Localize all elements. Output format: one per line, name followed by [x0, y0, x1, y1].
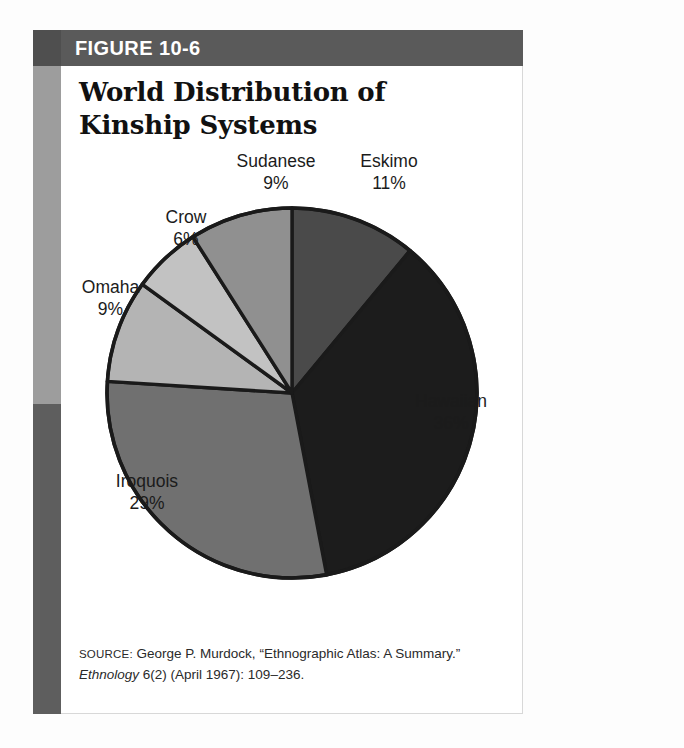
source-journal: Ethnology — [79, 667, 139, 682]
side-accent-bar-middle — [33, 66, 61, 404]
pie-chart: Sudanese 9% Eskimo 11% Crow 6% Omaha 9% … — [61, 158, 523, 628]
side-accent-bar-top — [33, 30, 61, 66]
figure-header-bar: FIGURE 10-6 — [61, 30, 523, 66]
pie-label-iroquois: Iroquois 29% — [87, 470, 207, 515]
pie-label-eskimo-pct: 11% — [339, 172, 439, 194]
pie-label-omaha-name: Omaha — [82, 277, 139, 297]
pie-label-crow-name: Crow — [166, 207, 207, 227]
pie-label-eskimo: Eskimo 11% — [339, 150, 439, 195]
source-note: SOURCE: George P. Murdock, “Ethnographic… — [79, 644, 504, 686]
pie-label-hawaiian-name: Hawaiian — [415, 391, 487, 411]
pie-label-hawaiian: Hawaiian 36% — [381, 390, 521, 435]
pie-label-omaha: Omaha 9% — [58, 276, 163, 321]
side-accent-bar-bottom — [33, 404, 61, 714]
figure-container: FIGURE 10-6 World Distribution of Kinshi… — [0, 0, 684, 748]
pie-label-sudanese-name: Sudanese — [237, 151, 316, 171]
source-author: George P. Murdock, — [137, 646, 256, 661]
pie-label-iroquois-name: Iroquois — [116, 471, 178, 491]
figure-title-line-2: Kinship Systems — [79, 110, 317, 140]
pie-label-sudanese-pct: 9% — [221, 172, 331, 194]
figure-title-line-1: World Distribution of — [79, 77, 385, 107]
pie-label-sudanese: Sudanese 9% — [221, 150, 331, 195]
pie-label-omaha-pct: 9% — [58, 298, 163, 320]
pie-label-iroquois-pct: 29% — [87, 492, 207, 514]
source-kicker: SOURCE: — [79, 648, 133, 660]
source-article: “Ethnographic Atlas: A Summary.” — [259, 646, 460, 661]
pie-label-eskimo-name: Eskimo — [360, 151, 417, 171]
pie-label-crow-pct: 6% — [146, 228, 226, 250]
source-citation: 6(2) (April 1967): 109–236. — [143, 667, 304, 682]
pie-label-hawaiian-pct: 36% — [381, 412, 521, 434]
figure-card: World Distribution of Kinship Systems — [61, 66, 523, 714]
figure-number-label: FIGURE 10-6 — [75, 37, 201, 60]
pie-label-crow: Crow 6% — [146, 206, 226, 251]
figure-title: World Distribution of Kinship Systems — [79, 76, 499, 143]
